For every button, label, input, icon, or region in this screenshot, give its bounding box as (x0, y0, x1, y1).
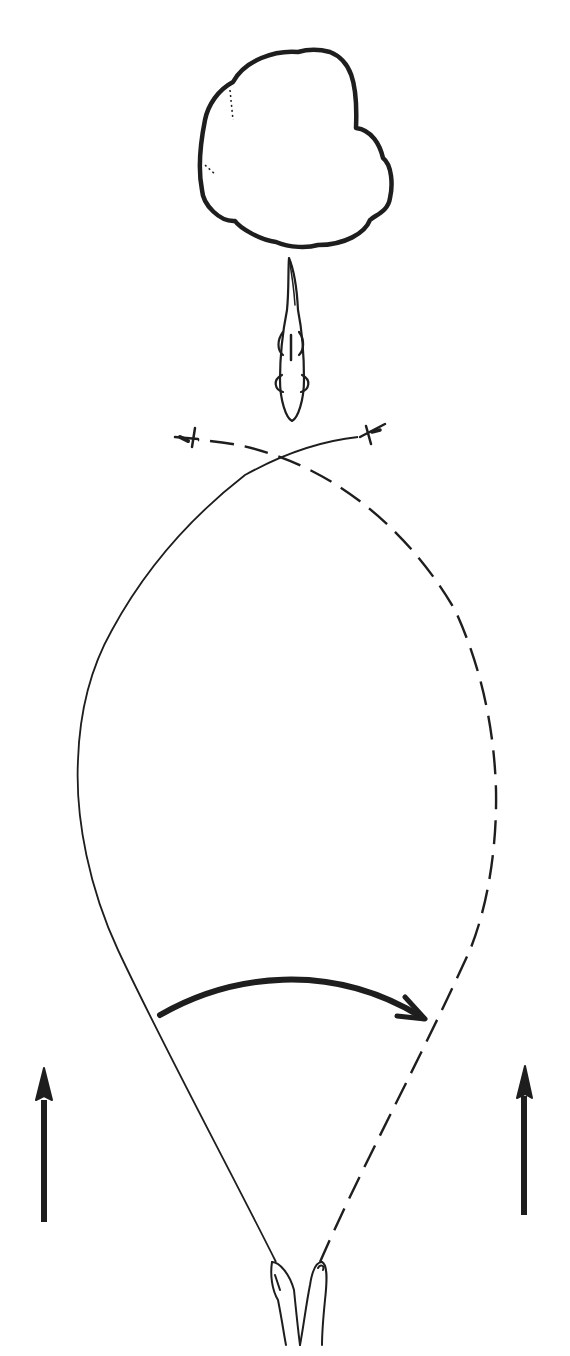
line-dashed (198, 440, 496, 1262)
cover-outline (200, 50, 392, 247)
line-solid (78, 437, 358, 1262)
hands-icon (271, 1262, 326, 1345)
arrow-up-left-icon (36, 1068, 52, 1222)
sweep-arrow-icon (160, 980, 425, 1019)
fly-left-icon (175, 428, 198, 447)
fly-right-icon (360, 424, 385, 444)
fish-icon (276, 258, 309, 421)
arrow-up-right-icon (517, 1066, 532, 1215)
casting-diagram (0, 0, 570, 1356)
